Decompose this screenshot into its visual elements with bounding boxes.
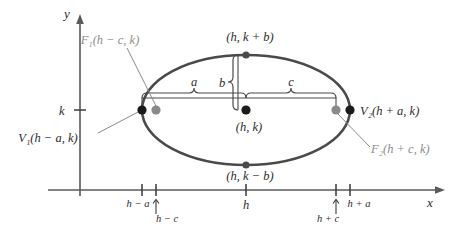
tick-h-plus-a-label: h + a [348,198,371,209]
vertex-left-dot [137,105,146,114]
tick-h-label: h [243,198,249,212]
braces [142,55,336,110]
tick-h-plus-c-label: h + c [317,213,340,224]
vertex-left-label: V₁(h − a, k) [18,131,77,145]
y-axis-label: y [62,6,70,21]
tick-h-plus-c-pointer [333,200,339,215]
brace-rail-right [246,98,336,110]
point-dots [137,51,354,168]
focus-right-label: F₂(h + c, k) [370,142,430,156]
center-dot [241,105,250,114]
focus-left-dot [151,105,160,114]
co-vertex-bottom-dot [242,161,249,168]
vertex-right-dot [345,105,354,114]
ellipse-diagram: y x k F₁(h − c, k) V₁(h − a, k) (h, k + … [0,0,456,239]
brace-c [246,88,336,98]
measure-guides [142,55,336,110]
vertex-right-label: V₂(h + a, k) [360,104,419,118]
co-vertex-top-label: (h, k + b) [226,30,273,44]
x-axis-arrow [435,186,445,194]
tick-h-minus-c-label: h − c [156,213,179,224]
focus-left-label: F₁(h − c, k) [80,33,140,47]
tick-h-minus-c-pointer [153,200,159,215]
co-vertex-bottom-label: (h, k − b) [226,169,273,183]
tick-h-minus-a-label: h − a [127,198,150,209]
dimension-a-label: a [191,75,197,89]
y-tick-label-k: k [59,104,65,118]
y-axis-arrow [76,14,84,24]
focus-right-dot [331,105,340,114]
dimension-b-label: b [219,76,225,90]
leader-v1 [98,110,142,133]
center-label: (h, k) [236,120,262,134]
brace-a [142,88,246,98]
co-vertex-top-dot [242,51,249,58]
brace-b [228,55,238,110]
dimension-c-label: c [288,75,294,89]
x-axis-label: x [426,195,433,210]
